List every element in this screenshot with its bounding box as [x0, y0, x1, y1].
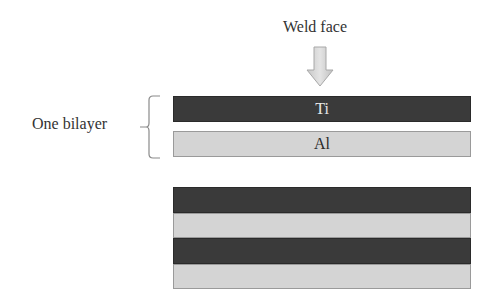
al-layer: Al: [173, 131, 471, 157]
one-bilayer-label: One bilayer: [32, 115, 107, 133]
al-label: Al: [314, 135, 330, 153]
stack-ti-layer-2: [173, 238, 471, 264]
weld-face-label: Weld face: [283, 18, 347, 36]
multilayer-stack: [173, 187, 471, 289]
stack-al-layer-1: [173, 213, 471, 239]
curly-brace-icon: [136, 94, 164, 160]
stack-al-layer-2: [173, 264, 471, 290]
stack-ti-layer-1: [173, 187, 471, 213]
ti-label: Ti: [315, 100, 329, 118]
down-arrow-icon: [305, 46, 335, 88]
ti-layer: Ti: [173, 96, 471, 122]
